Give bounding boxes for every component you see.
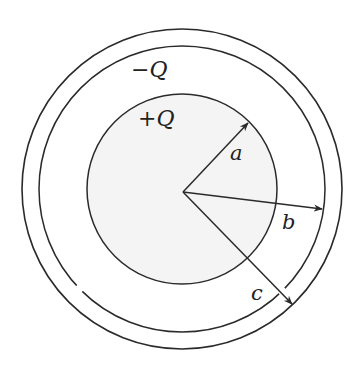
inner-charge-label: +Q [138,106,174,131]
inner-sphere [87,94,277,284]
outer-charge-label: −Q [131,57,167,82]
diagram-canvas: −Q +Q a b c [0,0,362,372]
radius-a-label: a [230,141,243,165]
radius-b-label: b [282,210,295,234]
capacitor-diagram: −Q +Q a b c [0,0,362,372]
radius-c-label: c [251,281,263,305]
